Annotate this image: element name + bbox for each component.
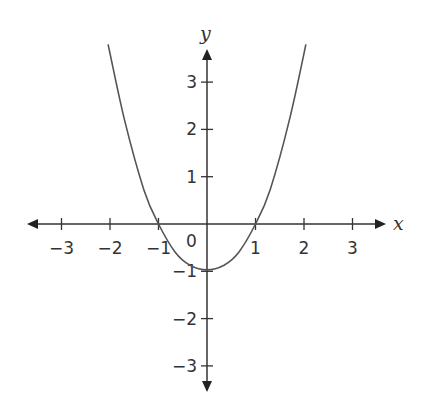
y-tick-label: −2 bbox=[172, 309, 197, 329]
x-tick-label: 1 bbox=[250, 238, 261, 258]
y-tick-label: −3 bbox=[172, 356, 197, 376]
y-tick-label: −1 bbox=[172, 261, 197, 281]
y-tick-label: 2 bbox=[186, 119, 197, 139]
x-tick-label: −3 bbox=[49, 238, 74, 258]
x-axis-right-arrow-icon bbox=[375, 219, 386, 229]
x-axis-label: x bbox=[393, 212, 404, 234]
x-tick-label: −2 bbox=[97, 238, 122, 258]
y-axis-up-arrow-icon bbox=[202, 49, 212, 60]
coordinate-plane: x y 0 −3−2−1123 321−1−2−3 bbox=[0, 0, 429, 416]
x-axis-left-arrow-icon bbox=[27, 219, 38, 229]
axes: x y 0 bbox=[27, 22, 404, 392]
y-axis-label: y bbox=[199, 22, 211, 44]
x-tick-label: 2 bbox=[299, 238, 310, 258]
y-tick-label: 3 bbox=[186, 72, 197, 92]
x-tick-label: 3 bbox=[347, 238, 358, 258]
y-axis-down-arrow-icon bbox=[202, 381, 212, 392]
origin-label: 0 bbox=[186, 231, 197, 251]
y-tick-label: 1 bbox=[186, 167, 197, 187]
